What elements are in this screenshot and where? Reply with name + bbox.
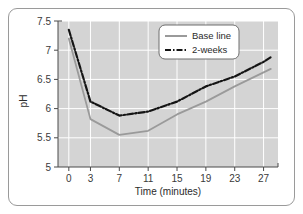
x-axis-tick-labels: 0371115192327	[66, 173, 270, 184]
ph-vs-time-line-chart: 55.566.577.5 0371115192327 Time (minutes…	[9, 9, 296, 207]
y-axis-tick-labels: 55.566.577.5	[37, 16, 51, 173]
x-tick-label: 23	[229, 173, 241, 184]
y-tick-label: 5.5	[37, 132, 51, 143]
x-axis-title: Time (minutes)	[135, 186, 201, 197]
figure-frame: 55.566.577.5 0371115192327 Time (minutes…	[8, 8, 295, 206]
x-tick-label: 11	[143, 173, 154, 184]
x-tick-label: 0	[66, 173, 72, 184]
y-tick-label: 6	[45, 103, 51, 114]
y-tick-label: 5	[45, 162, 51, 173]
x-tick-label: 19	[200, 173, 212, 184]
y-axis-title: pH	[18, 95, 29, 108]
x-axis-ticks	[69, 167, 264, 171]
x-tick-label: 15	[171, 173, 183, 184]
legend-label-2-weeks: 2-weeks	[192, 44, 228, 55]
x-tick-label: 27	[258, 173, 270, 184]
x-tick-label: 7	[117, 173, 123, 184]
legend-label-base-line: Base line	[192, 30, 231, 41]
chart-legend: Base line 2-weeks	[159, 25, 239, 59]
x-tick-label: 3	[88, 173, 94, 184]
y-tick-label: 6.5	[37, 74, 51, 85]
y-tick-label: 7	[45, 45, 51, 56]
y-tick-label: 7.5	[37, 16, 51, 27]
y-axis-ticks	[54, 21, 58, 167]
